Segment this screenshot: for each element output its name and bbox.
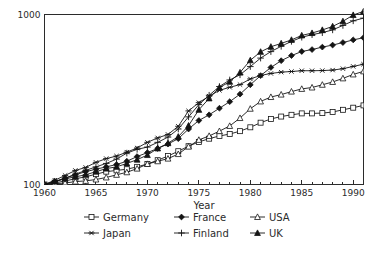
marker-triangle-open xyxy=(247,106,253,112)
line-chart: 19601965197019751980198519901001000YearG… xyxy=(0,0,388,255)
series-line xyxy=(45,18,364,184)
marker-square-open xyxy=(227,132,232,137)
chart-figure: 19601965197019751980198519901001000YearG… xyxy=(0,0,388,255)
marker-square-open xyxy=(310,111,315,116)
marker-diamond-solid xyxy=(330,42,336,48)
marker-triangle-solid xyxy=(340,18,346,24)
marker-square-open xyxy=(320,111,325,116)
legend-label: UK xyxy=(269,228,283,239)
marker-diamond-solid xyxy=(289,53,295,59)
series-line xyxy=(45,38,364,185)
marker-triangle-solid xyxy=(247,57,253,63)
marker-square-open xyxy=(361,103,366,108)
marker-diamond-solid xyxy=(340,40,346,46)
marker-triangle-solid xyxy=(289,37,295,43)
marker-triangle-open xyxy=(258,98,264,104)
series-germany xyxy=(42,103,366,187)
series-line xyxy=(45,11,364,184)
marker-diamond-solid xyxy=(206,112,212,118)
legend-label: France xyxy=(193,212,226,223)
x-axis-title: Year xyxy=(192,200,215,211)
chart-legend: GermanyFranceUSAJapanFinlandUK xyxy=(84,212,290,239)
marker-diamond-solid xyxy=(217,105,223,111)
series-group xyxy=(41,8,367,188)
marker-square-open xyxy=(330,109,335,114)
marker-square-open xyxy=(248,125,253,130)
marker-square-open xyxy=(89,215,94,220)
legend-item-japan[interactable]: Japan xyxy=(84,228,131,239)
legend-item-uk[interactable]: UK xyxy=(250,228,283,239)
x-axis-tick-label: 1985 xyxy=(290,188,313,198)
marker-triangle-open xyxy=(217,128,223,134)
marker-diamond-solid xyxy=(179,214,185,220)
y-axis-tick-label: 100 xyxy=(23,180,40,190)
marker-square-open xyxy=(299,111,304,116)
y-axis-tick-label: 1000 xyxy=(18,10,41,20)
legend-item-france[interactable]: France xyxy=(174,212,226,223)
marker-triangle-solid xyxy=(258,49,264,55)
x-axis-tick-label: 1970 xyxy=(136,188,159,198)
marker-triangle-open xyxy=(361,68,367,74)
x-axis-tick-label: 1980 xyxy=(239,188,262,198)
legend-item-finland[interactable]: Finland xyxy=(174,228,229,239)
marker-square-open xyxy=(238,129,243,134)
marker-diamond-solid xyxy=(309,47,315,53)
legend-label: USA xyxy=(269,212,290,223)
x-axis-tick-label: 1975 xyxy=(187,188,210,198)
series-japan xyxy=(41,62,366,187)
marker-triangle-solid xyxy=(186,123,192,129)
marker-diamond-solid xyxy=(299,49,305,55)
series-france xyxy=(42,35,367,188)
legend-label: Japan xyxy=(102,228,131,239)
marker-diamond-solid xyxy=(350,37,356,43)
marker-square-open xyxy=(279,114,284,119)
marker-diamond-solid xyxy=(319,44,325,50)
marker-triangle-open xyxy=(206,133,212,139)
x-axis-tick-label: 1965 xyxy=(84,188,107,198)
marker-triangle-open xyxy=(227,123,233,129)
marker-triangle-solid xyxy=(330,23,336,29)
marker-diamond-solid xyxy=(361,35,367,41)
series-finland xyxy=(41,15,367,188)
marker-triangle-solid xyxy=(361,8,367,14)
marker-square-open xyxy=(268,116,273,121)
marker-square-open xyxy=(351,105,356,110)
marker-square-open xyxy=(340,107,345,112)
legend-label: Finland xyxy=(193,228,229,239)
legend-item-germany[interactable]: Germany xyxy=(84,212,149,223)
series-line xyxy=(45,71,364,184)
legend-label: Germany xyxy=(103,212,149,223)
marker-square-open xyxy=(217,133,222,138)
series-uk xyxy=(42,8,367,187)
marker-square-open xyxy=(289,112,294,117)
marker-diamond-solid xyxy=(278,58,284,64)
series-line xyxy=(45,64,364,184)
x-axis-tick-label: 1990 xyxy=(342,188,365,198)
legend-item-usa[interactable]: USA xyxy=(250,212,290,223)
marker-square-open xyxy=(258,120,263,125)
